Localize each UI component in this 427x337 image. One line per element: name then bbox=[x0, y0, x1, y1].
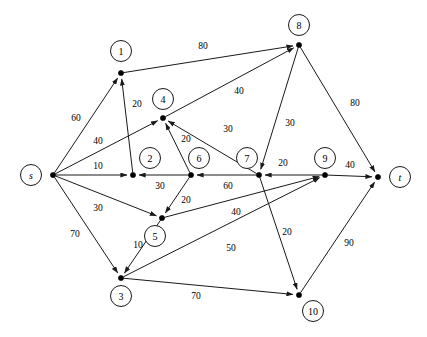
edge-s-to-5 bbox=[55, 176, 156, 216]
edge-8-to-7 bbox=[261, 47, 298, 169]
edge-s-to-3 bbox=[54, 177, 117, 273]
edge-2-to-1 bbox=[122, 79, 133, 172]
edge-weight-7-4: 30 bbox=[223, 124, 233, 134]
edge-1-to-8 bbox=[124, 46, 294, 73]
node-label-10: 10 bbox=[308, 306, 318, 317]
edge-weight-s-1: 60 bbox=[71, 113, 81, 123]
edge-3-to-10 bbox=[124, 278, 293, 294]
node-label-t: t bbox=[399, 172, 402, 183]
node-label-6: 6 bbox=[197, 153, 202, 164]
edge-6-to-4 bbox=[166, 123, 190, 172]
edge-weight-6-2: 30 bbox=[155, 181, 165, 191]
node-dot-1[interactable] bbox=[118, 70, 123, 75]
edge-weight-1-8: 80 bbox=[198, 41, 208, 51]
edge-10-to-t bbox=[300, 182, 374, 293]
edge-weight-2-1: 20 bbox=[132, 99, 142, 109]
network-diagram-canvas: 6040103070802040203030602020403080405010… bbox=[0, 0, 427, 337]
edge-weight-10-t: 90 bbox=[344, 238, 354, 248]
edge-4-to-8 bbox=[165, 48, 293, 117]
node-dot-6[interactable] bbox=[188, 172, 193, 177]
node-dot-9[interactable] bbox=[322, 172, 327, 177]
node-label-s: s bbox=[29, 170, 33, 181]
edge-weight-4-8: 40 bbox=[234, 86, 244, 96]
edge-s-to-1 bbox=[54, 78, 117, 173]
network-graph-svg: 6040103070802040203030602020403080405010… bbox=[0, 0, 427, 337]
edge-weight-s-4: 40 bbox=[93, 136, 103, 146]
edge-weight-s-3: 70 bbox=[70, 229, 80, 239]
edge-9-to-t bbox=[328, 175, 372, 177]
node-dot-t[interactable] bbox=[375, 174, 380, 179]
node-dot-7[interactable] bbox=[256, 172, 261, 177]
edge-weight-8-t: 80 bbox=[350, 98, 360, 108]
edge-weight-9-7: 20 bbox=[278, 158, 288, 168]
edge-weight-7-10: 20 bbox=[282, 227, 292, 237]
node-dot-10[interactable] bbox=[296, 292, 301, 297]
node-label-2: 2 bbox=[148, 153, 153, 164]
edge-weight-7-6: 60 bbox=[223, 181, 233, 191]
node-dot-4[interactable] bbox=[160, 115, 165, 120]
node-label-4: 4 bbox=[161, 94, 166, 105]
edge-weight-s-5: 30 bbox=[93, 203, 103, 213]
edge-weight-5-3: 10 bbox=[133, 240, 143, 250]
edge-weight-5-9: 40 bbox=[231, 207, 241, 217]
edge-weight-6-4: 20 bbox=[181, 134, 191, 144]
node-label-3: 3 bbox=[119, 291, 124, 302]
node-dot-8[interactable] bbox=[296, 42, 301, 47]
edge-weight-6-5: 20 bbox=[181, 195, 191, 205]
node-dot-5[interactable] bbox=[159, 215, 164, 220]
node-label-7: 7 bbox=[245, 153, 250, 164]
node-dot-3[interactable] bbox=[118, 275, 123, 280]
node-label-1: 1 bbox=[119, 46, 124, 57]
edge-weight-s-2: 10 bbox=[93, 161, 103, 171]
node-dot-s[interactable] bbox=[50, 172, 55, 177]
node-label-5: 5 bbox=[153, 231, 158, 242]
node-label-9: 9 bbox=[323, 153, 328, 164]
edge-weights-layer: 6040103070802040203030602020403080405010… bbox=[70, 41, 360, 301]
edge-8-to-t bbox=[300, 47, 375, 172]
edge-weight-8-7: 30 bbox=[285, 118, 295, 128]
node-dot-2[interactable] bbox=[130, 172, 135, 177]
edge-weight-9-t: 40 bbox=[345, 160, 355, 170]
edge-weight-3-10: 70 bbox=[191, 291, 201, 301]
node-label-8: 8 bbox=[297, 20, 302, 31]
edge-weight-3-9: 50 bbox=[226, 243, 236, 253]
